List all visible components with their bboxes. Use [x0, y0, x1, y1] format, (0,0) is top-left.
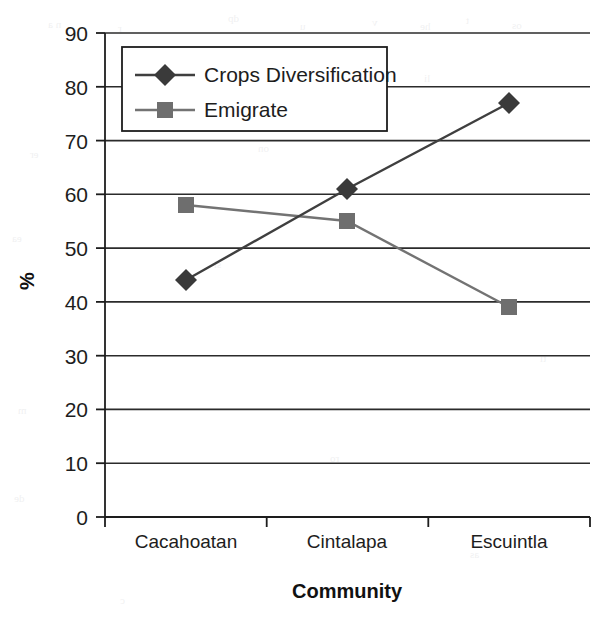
y-tick-label: 70	[65, 130, 88, 153]
legend-label-emigrate: Emigrate	[204, 98, 288, 121]
diamond-marker-icon	[175, 269, 197, 291]
y-tick-label: 50	[65, 237, 88, 260]
y-tick-marks	[96, 33, 105, 517]
y-tick-label: 0	[76, 506, 88, 529]
y-axis-title: %	[16, 272, 38, 290]
line-chart: 90 80 70 60 50 40 30 20 10 0 Cacahoatan …	[0, 0, 603, 625]
y-tick-label: 20	[65, 398, 88, 421]
diamond-marker-icon	[498, 92, 520, 114]
x-tick-marks	[105, 517, 590, 527]
square-marker-icon	[339, 213, 355, 229]
y-tick-label: 40	[65, 291, 88, 314]
x-tick-label-cacahoatan: Cacahoatan	[135, 531, 237, 552]
diamond-marker-icon	[336, 178, 358, 200]
y-tick-label: 60	[65, 183, 88, 206]
square-marker-icon	[178, 197, 194, 213]
square-marker-icon	[501, 299, 517, 315]
x-axis-title: Community	[292, 580, 403, 602]
square-marker-icon	[157, 102, 173, 118]
chart-legend: Crops Diversification Emigrate	[122, 47, 397, 131]
legend-label-crops-diversification: Crops Diversification	[204, 63, 397, 86]
y-tick-label: 90	[65, 22, 88, 45]
y-tick-label: 30	[65, 345, 88, 368]
y-tick-label: 80	[65, 76, 88, 99]
x-tick-labels: Cacahoatan Cintalapa Escuintla	[135, 531, 548, 552]
y-tick-label: 10	[65, 452, 88, 475]
x-tick-label-escuintla: Escuintla	[470, 531, 548, 552]
x-tick-label-cintalapa: Cintalapa	[307, 531, 388, 552]
y-tick-labels: 90 80 70 60 50 40 30 20 10 0	[65, 22, 88, 529]
chart-container: n a r dp u v he t os a e li er on ea si …	[0, 0, 603, 625]
